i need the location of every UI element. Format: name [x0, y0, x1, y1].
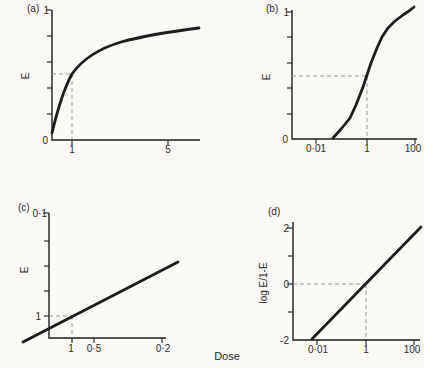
- panel-b-x-tick-label-001: 0·01: [306, 143, 326, 154]
- panel-c-x-tick-label-05: 0·5: [87, 343, 102, 354]
- panel-d-y-tick-label-0: 0: [283, 279, 289, 290]
- shared-x-axis-title: Dose: [214, 350, 240, 362]
- panel-b-y-axis-title: E: [261, 73, 272, 80]
- panel-d-y-tick-label-neg2: -2: [280, 335, 289, 346]
- panel-a-x-tick-label-1: 1: [69, 144, 75, 155]
- panel-c-x-tick-label-02: 0·2: [156, 343, 171, 354]
- panel-a-y-min-label: 0: [42, 135, 48, 146]
- panel-c-label: (c): [18, 202, 30, 213]
- panel-c-x-tick-label-1: 1: [68, 343, 74, 354]
- panel-c-line: [23, 262, 178, 342]
- panel-d-x-tick-label-100: 100: [404, 344, 421, 355]
- panel-a: (a) 1 0 E 1 5: [20, 3, 200, 155]
- panel-a-label: (a): [27, 3, 39, 14]
- panel-d: (d) 2 0 -2 log E/1-E 0·01 1 100: [258, 206, 421, 355]
- panel-b-x-tick-label-1: 1: [364, 143, 370, 154]
- panel-d-label: (d): [268, 206, 280, 217]
- panel-c-x-ticks: [72, 338, 162, 343]
- panel-c-y-mid-label: 1: [35, 311, 41, 322]
- panel-b-y-ticks: [286, 12, 292, 114]
- panel-b-label: (b): [266, 3, 278, 14]
- four-panel-dose-response-figure: (a) 1 0 E 1 5 (b) 1 0 E 0·01 1 100: [0, 0, 424, 368]
- panel-d-x-tick-label-001: 0·01: [308, 344, 328, 355]
- panel-d-x-tick-label-1: 1: [363, 344, 369, 355]
- panel-a-x-tick-label-5: 5: [165, 144, 171, 155]
- panel-b-axes: [292, 10, 417, 139]
- panel-a-y-max-label: 1: [43, 5, 49, 16]
- panel-b-y-min-label: 0: [282, 134, 288, 145]
- panel-a-curve: [52, 28, 199, 133]
- panel-a-x-ticks: [72, 140, 168, 145]
- panel-b: (b) 1 0 E 0·01 1 100: [261, 3, 422, 154]
- panel-d-y-ticks: [287, 228, 293, 312]
- panel-c-y-top-label: 0·1: [33, 208, 48, 219]
- panel-d-axes: [293, 222, 420, 340]
- panel-d-dashed-guides: [293, 284, 366, 340]
- panel-b-curve: [333, 7, 414, 138]
- panel-c-y-axis-title: E: [19, 266, 30, 273]
- figure-canvas: (a) 1 0 E 1 5 (b) 1 0 E 0·01 1 100: [0, 0, 424, 368]
- panel-c: (c) 0·1 1 E 1 0·5 0·2: [18, 202, 178, 354]
- panel-a-y-ticks: [46, 10, 52, 114]
- panel-c-y-ticks: [43, 213, 49, 316]
- panel-b-y-max-label: 1: [283, 7, 289, 18]
- panel-b-x-tick-label-100: 100: [405, 143, 422, 154]
- panel-d-y-axis-title: log E/1-E: [258, 262, 269, 303]
- panel-a-dashed-guides: [52, 74, 72, 140]
- panel-a-y-axis-title: E: [20, 72, 31, 79]
- panel-d-y-tick-label-2: 2: [283, 223, 289, 234]
